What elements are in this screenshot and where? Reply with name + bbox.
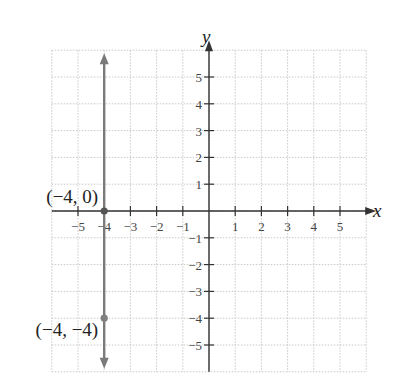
arrow-up-icon <box>100 53 109 64</box>
y-tick-label: 3 <box>196 124 203 139</box>
x-tick-label: −3 <box>123 219 137 234</box>
y-tick-label: 2 <box>196 150 203 165</box>
y-axis-label: y <box>200 26 211 47</box>
arrow-down-icon <box>100 358 109 369</box>
x-tick-label: 5 <box>337 219 344 234</box>
y-tick-label: 5 <box>196 70 203 85</box>
point-label: (−4, −4) <box>36 319 99 341</box>
y-tick-label: −4 <box>188 311 202 326</box>
axes <box>52 40 376 372</box>
x-tick-label: 4 <box>311 219 318 234</box>
y-tick-label: 4 <box>196 97 203 112</box>
point-label: (−4, 0) <box>46 186 98 208</box>
y-tick-label: −2 <box>188 258 202 273</box>
x-tick-label: 2 <box>258 219 265 234</box>
x-tick-label: 3 <box>284 219 291 234</box>
x-tick-labels: −5−4−3−2−112345 <box>71 219 343 234</box>
y-tick-label: −3 <box>188 284 202 299</box>
data-point <box>101 207 108 214</box>
y-tick-label: −5 <box>188 338 202 353</box>
data-point <box>101 315 108 322</box>
y-tick-label: −1 <box>188 231 202 246</box>
y-tick-label: 1 <box>196 177 203 192</box>
x-tick-label: −2 <box>150 219 164 234</box>
x-tick-label: −5 <box>71 219 85 234</box>
coordinate-plane: −5−4−3−2−112345 54321−1−2−3−4−5 (−4, 0)(… <box>0 0 401 391</box>
x-tick-label: 1 <box>232 219 239 234</box>
x-axis-label: x <box>372 200 382 221</box>
